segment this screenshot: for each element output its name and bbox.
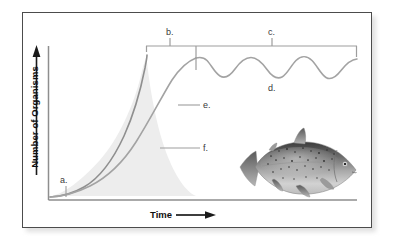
figure-container: Number of Organisms Time a. b. c. d. e. …	[0, 0, 394, 245]
callout-label-c: c.	[268, 28, 275, 37]
y-axis-label: Number of Organisms	[24, 57, 42, 177]
fish-tail-fin	[240, 151, 258, 186]
right-arrow-icon	[176, 210, 216, 220]
callout-label-d: d.	[268, 84, 276, 93]
fish-pupil	[344, 163, 347, 166]
callout-label-f: f.	[203, 144, 208, 153]
callout-label-a: a.	[60, 176, 68, 185]
x-axis-label: Time	[150, 209, 216, 220]
fish-illustration	[240, 128, 357, 197]
fish-dorsal-fin	[294, 128, 306, 144]
bracket-b	[146, 38, 196, 70]
callout-label-b: b.	[166, 28, 174, 37]
callout-label-e: e.	[203, 101, 211, 110]
fish-body-highlight	[260, 147, 340, 179]
y-axis-label-text: Number of Organisms	[29, 66, 40, 168]
carrying-capacity-oscillation	[196, 57, 357, 79]
bracket-c	[196, 38, 357, 57]
x-axis-label-text: Time	[150, 209, 172, 220]
